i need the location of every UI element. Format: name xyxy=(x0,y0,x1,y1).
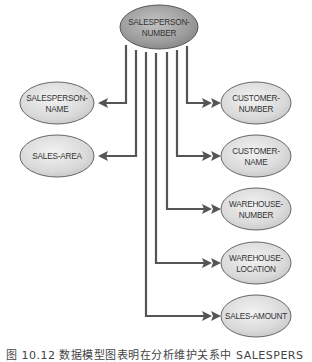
double-arrow-right-icon xyxy=(202,258,221,268)
node-salesperson-name: SALESPERSON- NAME xyxy=(20,82,94,124)
edge-customer-number xyxy=(187,46,206,103)
node-label: SALES-AMOUNT xyxy=(225,312,287,321)
node-warehouse-number: WAREHOUSE- NUMBER xyxy=(221,188,291,230)
node-label: NUMBER xyxy=(239,105,274,114)
node-customer-number: CUSTOMER- NUMBER xyxy=(221,82,291,124)
node-label: NUMBER xyxy=(142,29,177,38)
node-sales-amount: SALES-AMOUNT xyxy=(221,295,291,337)
node-label: CUSTOMER- xyxy=(232,147,280,156)
node-label: SALESPERSON- xyxy=(128,18,190,27)
node-label: NAME xyxy=(245,158,269,167)
node-label: NAME xyxy=(46,105,70,114)
double-arrow-right-icon xyxy=(202,151,221,161)
node-warehouse-location: WAREHOUSE- LOCATION xyxy=(221,242,291,284)
connectors xyxy=(104,45,206,316)
node-customer-name: CUSTOMER- NAME xyxy=(221,135,291,177)
double-arrowheads xyxy=(202,98,221,321)
node-label: LOCATION xyxy=(236,265,276,274)
node-label: SALESPERSON- xyxy=(26,94,88,103)
node-label: NUMBER xyxy=(239,211,274,220)
node-sales-area: SALES-AREA xyxy=(20,135,94,177)
edge-warehouse-location xyxy=(156,53,206,263)
node-label: WAREHOUSE- xyxy=(229,254,284,263)
single-arrowheads xyxy=(98,98,108,161)
node-salesperson-number: SALESPERSON- NUMBER xyxy=(120,5,198,49)
node-label: SALES-AREA xyxy=(32,152,82,161)
double-arrow-right-icon xyxy=(202,311,221,321)
node-label: CUSTOMER- xyxy=(232,94,280,103)
node-label: WAREHOUSE- xyxy=(229,200,284,209)
figure-caption: 图 10.12 数据模型图表明在分析维护关系中 SALESPERS xyxy=(6,346,312,362)
double-arrow-right-icon xyxy=(202,98,221,108)
double-arrow-right-icon xyxy=(202,204,221,214)
edge-salesperson-name xyxy=(104,45,126,103)
